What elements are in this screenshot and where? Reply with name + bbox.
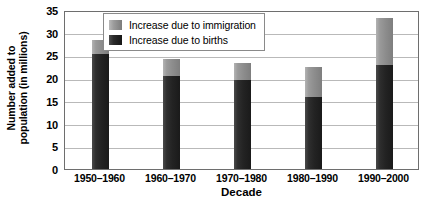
births-swatch-icon <box>109 35 122 45</box>
y-tick-label: 0 <box>36 164 58 176</box>
x-tick-label: 1980–1990 <box>273 172 353 184</box>
chart-legend: Increase due to immigration Increase due… <box>103 13 265 51</box>
immigration-swatch-icon <box>109 20 122 30</box>
gridline <box>65 57 418 58</box>
x-tick-label: 1950–1960 <box>60 172 140 184</box>
bar-segment-immigration <box>163 59 180 76</box>
bar <box>92 40 109 169</box>
bar <box>305 67 322 169</box>
x-tick-label: 1990–2000 <box>344 172 424 184</box>
y-tick-label: 35 <box>36 5 58 17</box>
bar-segment-immigration <box>234 63 251 81</box>
bar <box>163 59 180 169</box>
bar <box>376 18 393 169</box>
bar-segment-births <box>92 54 109 169</box>
x-tick-label: 1970–1980 <box>202 172 282 184</box>
bar-segment-births <box>234 80 251 169</box>
y-tick-label: 5 <box>36 141 58 153</box>
bar-chart: Number added to population (in millions)… <box>0 0 436 216</box>
bar-segment-immigration <box>305 67 322 97</box>
x-tick-label: 1960–1970 <box>131 172 211 184</box>
y-axis-title-line2: population (in millions) <box>17 31 29 144</box>
y-tick-label: 10 <box>36 119 58 131</box>
bar-segment-births <box>376 65 393 169</box>
legend-item-immigration: Increase due to immigration <box>109 17 256 32</box>
bar-segment-births <box>305 97 322 169</box>
legend-label-births: Increase due to births <box>129 34 228 46</box>
y-tick-label: 20 <box>36 73 58 85</box>
x-axis-title: Decade <box>64 186 419 198</box>
y-axis-title-line1: Number added to <box>5 31 17 144</box>
bar-segment-immigration <box>376 18 393 65</box>
y-tick-label: 15 <box>36 96 58 108</box>
y-axis-title: Number added to population (in millions) <box>0 8 34 168</box>
bar <box>234 63 251 169</box>
y-tick-label: 30 <box>36 28 58 40</box>
y-tick-label: 25 <box>36 50 58 62</box>
bar-segment-births <box>163 76 180 169</box>
legend-label-immigration: Increase due to immigration <box>129 19 256 31</box>
legend-item-births: Increase due to births <box>109 32 256 47</box>
